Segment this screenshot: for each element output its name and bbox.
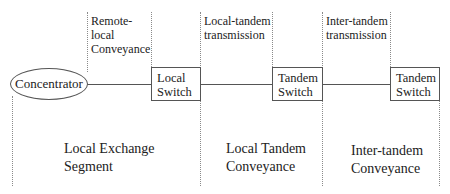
local-tandem-segment-line-1: Local Tandem	[226, 140, 306, 158]
concentrator-label: Concentrator	[15, 76, 83, 92]
inter-tandem-segment-line-2: Conveyance	[351, 160, 423, 178]
tandem-switch-node-2: Tandem Switch	[390, 67, 440, 101]
tandem-switch-1-label-1: Tandem	[278, 71, 322, 85]
link-tandem-tandem	[322, 84, 390, 85]
local-switch-node: Local Switch	[151, 67, 201, 101]
tandem-switch-1-label-2: Switch	[278, 85, 322, 99]
link-local-tandem	[201, 84, 272, 85]
remote-local-label: Remote- local Conveyance	[91, 14, 150, 56]
divider-intertandem-right	[390, 12, 391, 67]
inter-tandem-label: Inter-tandem transmission	[326, 14, 388, 42]
tandem-switch-2-label-2: Switch	[396, 85, 439, 99]
inter-tandem-line-2: transmission	[326, 28, 388, 42]
divider-localtandem-right	[272, 12, 273, 67]
tandem-switch-node-1: Tandem Switch	[272, 67, 323, 101]
inter-tandem-segment-label: Inter-tandem Conveyance	[351, 142, 423, 178]
local-tandem-line-2: transmission	[204, 28, 271, 42]
inter-tandem-line-1: Inter-tandem	[326, 14, 388, 28]
local-exchange-line-1: Local Exchange	[64, 140, 155, 158]
divider-remote-right	[151, 12, 152, 67]
local-tandem-segment-label: Local Tandem Conveyance	[226, 140, 306, 176]
local-tandem-label: Local-tandem transmission	[204, 14, 271, 42]
divider-remote-left	[87, 12, 88, 72]
link-concentrator-local	[87, 84, 152, 85]
local-switch-label-2: Switch	[157, 85, 200, 99]
divider-segment-left	[12, 96, 13, 186]
local-exchange-segment-label: Local Exchange Segment	[64, 140, 155, 176]
local-tandem-segment-line-2: Conveyance	[226, 158, 306, 176]
local-tandem-line-1: Local-tandem	[204, 14, 271, 28]
remote-local-line-1: Remote-	[91, 14, 150, 28]
local-switch-label-1: Local	[157, 71, 200, 85]
inter-tandem-segment-line-1: Inter-tandem	[351, 142, 423, 160]
local-exchange-line-2: Segment	[64, 158, 155, 176]
divider-segment-right	[439, 100, 440, 186]
remote-local-line-2: local	[91, 28, 150, 42]
concentrator-node: Concentrator	[10, 68, 88, 100]
remote-local-line-3: Conveyance	[91, 42, 150, 56]
tandem-switch-2-label-1: Tandem	[396, 71, 439, 85]
